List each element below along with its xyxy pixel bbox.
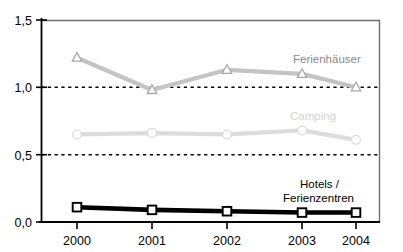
camping-marker bbox=[223, 130, 232, 139]
y-axis-label-1-0: 1,0 bbox=[15, 81, 32, 95]
y-axis-label-0-0: 0,0 bbox=[15, 216, 32, 230]
hotels-marker bbox=[352, 208, 361, 217]
y-axis-label-0-5: 0,5 bbox=[15, 149, 32, 163]
x-axis-label-2002: 2002 bbox=[213, 234, 241, 248]
series-label-ferienhaeuser: Ferienhäuser bbox=[293, 53, 361, 65]
series-label-hotels-line2: Ferienzentren bbox=[283, 192, 354, 204]
x-axis-label-2000: 2000 bbox=[63, 234, 91, 248]
camping-marker bbox=[148, 129, 157, 138]
line-chart: 1,5 1,0 0,5 0,0 2000 2001 2002 2003 2004 bbox=[0, 0, 403, 252]
series-label-camping: Camping bbox=[290, 110, 336, 122]
camping-marker bbox=[352, 135, 361, 144]
hotels-marker bbox=[148, 206, 157, 215]
camping-marker bbox=[73, 130, 82, 139]
hotels-marker bbox=[73, 203, 82, 212]
x-axis-label-2001: 2001 bbox=[138, 234, 166, 248]
hotels-marker bbox=[223, 207, 232, 216]
camping-marker bbox=[298, 126, 307, 135]
y-axis-label-1-5: 1,5 bbox=[15, 14, 32, 28]
x-axis-label-2004: 2004 bbox=[342, 234, 370, 248]
x-axis-ticks bbox=[77, 222, 356, 229]
series-label-hotels-line1: Hotels / bbox=[300, 178, 340, 190]
hotels-marker bbox=[298, 208, 307, 217]
x-axis-label-2003: 2003 bbox=[288, 234, 316, 248]
chart-container: 1,5 1,0 0,5 0,0 2000 2001 2002 2003 2004 bbox=[0, 0, 403, 252]
